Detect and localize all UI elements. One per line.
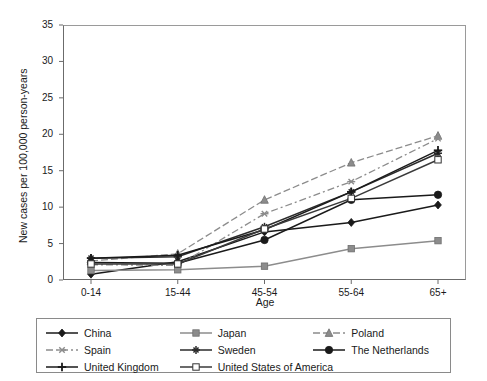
data-point-circle-filled [261,236,268,243]
legend-label: Poland [351,327,384,339]
data-point-x-gray [347,179,355,184]
data-point-x-gray [261,211,269,216]
data-point-square-gray [192,329,198,335]
legend-label: The Netherlands [351,344,429,356]
data-point-diamond-filled [348,218,355,226]
legend-label: China [84,327,111,339]
legend-label: United Kingdom [84,361,159,373]
legend-item[interactable]: Spain [45,341,179,358]
data-point-square-open [88,261,94,267]
data-point-square-open [261,226,267,232]
data-point-x-gray [58,347,66,352]
y-tick-label: 35 [27,20,53,30]
legend-label: Sweden [218,344,256,356]
x-tick-label: 65+ [403,288,473,298]
legend-item[interactable]: The Netherlands [312,341,446,358]
data-point-square-open [435,157,441,163]
legend-item[interactable]: United Kingdom [45,358,179,375]
data-point-diamond-filled [435,201,442,209]
legend-symbol-square-open [179,360,213,374]
legend-label: Japan [218,327,247,339]
legend-item[interactable]: United States of America [179,358,313,375]
legend-symbol-x-gray [45,343,79,357]
data-point-star-black [192,346,200,354]
data-point-square-gray [88,267,94,273]
legend-label: Spain [84,344,111,356]
legend-item[interactable]: Japan [179,324,313,341]
data-point-circle-filled [326,346,333,353]
legend-item[interactable]: China [45,324,179,341]
x-axis-title: Age [195,296,335,308]
y-tick-label: 20 [27,129,53,139]
legend-symbol-circle-filled [312,343,346,357]
y-tick-label: 30 [27,56,53,66]
y-tick-label: 15 [27,166,53,176]
data-point-plus-black [58,362,66,370]
legend-symbol-triangle-gray [312,326,346,340]
data-point-square-gray [435,237,441,243]
y-tick-label: 0 [27,275,53,285]
data-point-circle-filled [434,191,441,198]
plot-area: 05101520253035 0-1415-4445-5455-6465+ Ag… [0,0,487,305]
legend: ChinaJapanPolandSpainSwedenThe Netherlan… [36,318,451,373]
series-layer [87,132,442,279]
data-point-square-open [175,261,181,267]
legend-label: United States of America [218,361,334,373]
y-tick-label: 5 [27,239,53,249]
data-point-diamond-filled [59,329,66,337]
chart-canvas [0,0,487,305]
legend-symbol-plus-black [45,360,79,374]
legend-item[interactable]: Sweden [179,341,313,358]
x-tick-label: 0-14 [56,288,126,298]
series-united-states-of-america [88,157,441,268]
chart-screenshot: 05101520253035 0-1415-4445-5455-6465+ Ag… [0,0,487,381]
y-axis-title: New cases per 100,000 person-years [17,68,29,243]
data-point-square-open [348,195,354,201]
y-tick-label: 25 [27,93,53,103]
legend-item[interactable]: Poland [312,324,446,341]
data-point-square-open [192,363,198,369]
axis-ticks [59,25,438,284]
y-tick-label: 10 [27,202,53,212]
legend-symbol-diamond-filled [45,326,79,340]
legend-symbol-star-black [179,343,213,357]
data-point-square-gray [261,263,267,269]
legend-symbol-square-gray [179,326,213,340]
data-point-square-gray [348,245,354,251]
data-point-triangle-gray [261,196,269,204]
